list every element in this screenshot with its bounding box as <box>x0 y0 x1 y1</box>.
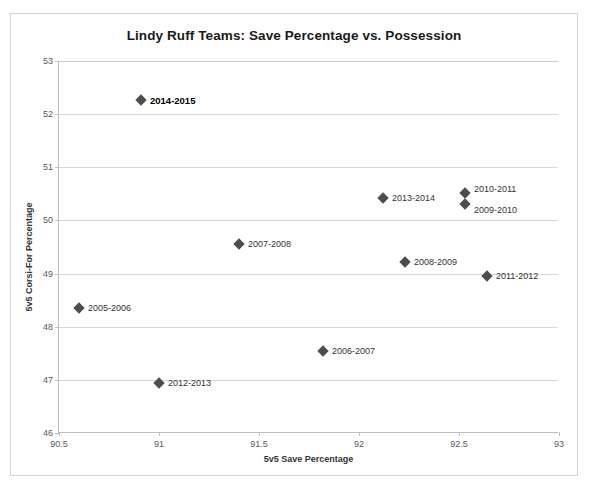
data-point-label: 2009-2010 <box>474 205 517 215</box>
x-axis-tick-label: 91.5 <box>250 439 268 449</box>
y-axis-tick-label: 52 <box>43 109 53 119</box>
data-point-label: 2006-2007 <box>332 346 375 356</box>
diamond-marker-icon <box>153 377 164 388</box>
y-axis-title: 5v5 Corsi-For Percentage <box>24 202 34 311</box>
diamond-marker-icon <box>459 187 470 198</box>
data-point-label: 2005-2006 <box>88 303 131 313</box>
diamond-marker-icon <box>135 94 146 105</box>
y-tick-mark <box>55 220 59 221</box>
gridline <box>59 167 558 168</box>
plot-area: 4647484950515253 90.59191.59292.593 2014… <box>58 61 558 433</box>
gridline <box>59 220 558 221</box>
data-point-label: 2010-2011 <box>474 184 516 194</box>
data-point-label: 2008-2009 <box>414 257 457 267</box>
y-tick-mark <box>55 167 59 168</box>
diamond-marker-icon <box>399 256 410 267</box>
x-tick-mark <box>459 432 460 436</box>
diamond-marker-icon <box>317 345 328 356</box>
x-axis-title: 5v5 Save Percentage <box>59 454 558 464</box>
diamond-marker-icon <box>233 239 244 250</box>
y-tick-mark <box>55 327 59 328</box>
data-point-label: 2013-2014 <box>392 193 435 203</box>
y-tick-mark <box>55 380 59 381</box>
data-point-label: 2012-2013 <box>168 378 211 388</box>
gridline <box>59 114 558 115</box>
x-axis-tick-label: 93 <box>554 439 564 449</box>
gridline <box>59 327 558 328</box>
x-axis-tick-label: 90.5 <box>50 439 68 449</box>
chart-title: Lindy Ruff Teams: Save Percentage vs. Po… <box>11 28 577 43</box>
x-axis-tick-label: 92.5 <box>450 439 468 449</box>
diamond-marker-icon <box>481 271 492 282</box>
x-tick-mark <box>559 432 560 436</box>
x-tick-mark <box>359 432 360 436</box>
gridline <box>59 61 558 62</box>
x-tick-mark <box>159 432 160 436</box>
x-axis-tick-label: 91 <box>154 439 164 449</box>
x-tick-mark <box>59 432 60 436</box>
diamond-marker-icon <box>73 302 84 313</box>
data-point-label: 2007-2008 <box>248 239 291 249</box>
y-axis-tick-label: 47 <box>43 375 53 385</box>
y-axis-tick-label: 46 <box>43 428 53 438</box>
y-axis-tick-label: 50 <box>43 215 53 225</box>
diamond-marker-icon <box>459 198 470 209</box>
y-axis-tick-label: 53 <box>43 56 53 66</box>
y-tick-mark <box>55 114 59 115</box>
y-axis-tick-label: 51 <box>43 162 53 172</box>
y-axis-tick-label: 48 <box>43 322 53 332</box>
x-axis-tick-label: 92 <box>354 439 364 449</box>
diamond-marker-icon <box>377 192 388 203</box>
x-tick-mark <box>259 432 260 436</box>
gridline <box>59 380 558 381</box>
data-point-label: 2014-2015 <box>150 94 195 105</box>
y-tick-mark <box>55 274 59 275</box>
y-tick-mark <box>55 61 59 62</box>
data-point-label: 2011-2012 <box>496 271 538 281</box>
y-axis-tick-label: 49 <box>43 269 53 279</box>
chart-container: Lindy Ruff Teams: Save Percentage vs. Po… <box>10 13 578 476</box>
